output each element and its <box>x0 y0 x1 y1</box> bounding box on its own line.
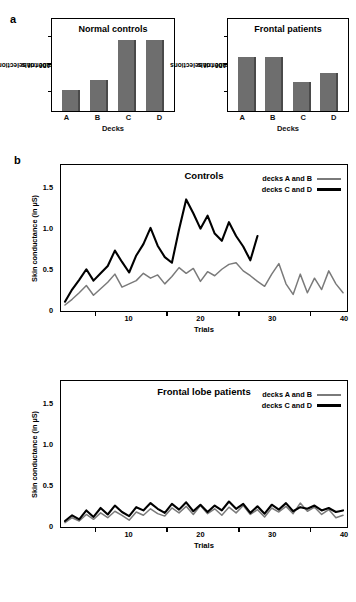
bar-x-label-d: D <box>321 113 347 122</box>
bar-deck-b <box>90 80 108 111</box>
bar-x-axis-title-frontal-patients: Decks <box>227 124 349 133</box>
legend-swatch-decks-cd <box>317 404 341 407</box>
line-chart-legend-frontal: decks A and B decks C and D <box>262 390 341 410</box>
bar-chart-frontal-patients: Number of selections over 100 trials Fro… <box>203 18 349 138</box>
panel-label-b: b <box>14 154 21 166</box>
bar-deck-c <box>293 82 311 111</box>
bar-x-label-a: A <box>229 113 255 122</box>
bar-deck-b <box>265 57 283 111</box>
y-tick-label: 1.5 <box>43 182 53 191</box>
y-tick-label: 0 <box>49 306 53 315</box>
bar-plot-area-normal-controls: Normal controls <box>51 18 175 112</box>
x-tick-label: 20 <box>196 314 204 323</box>
line-chart-frontal-lobe-patients: Skin conductance (in µS) 0 0.5 1.0 1.5 F… <box>26 380 348 562</box>
bar-y-tick-group <box>224 19 228 111</box>
bar-x-axis-title-normal-controls: Decks <box>51 124 175 133</box>
bar-y-tick-group <box>48 19 52 111</box>
bar-x-tick-labels-normal-controls: A B C D <box>51 113 175 122</box>
legend-item-decks-ab: decks A and B <box>262 390 341 399</box>
legend-label-decks-ab: decks A and B <box>262 390 312 399</box>
x-tick-label: 30 <box>268 530 276 539</box>
x-tick-label: 40 <box>340 314 348 323</box>
bar-item <box>59 19 83 111</box>
legend-swatch-decks-ab <box>317 178 341 180</box>
bar-y-tick <box>224 91 228 92</box>
bar-deck-a <box>238 57 256 111</box>
y-tick-label: 1.5 <box>43 398 53 407</box>
bar-x-label-d: D <box>146 113 172 122</box>
x-tick-label: 20 <box>196 530 204 539</box>
y-tick-label: 0.5 <box>43 264 53 273</box>
y-tick-label: 0 <box>49 522 53 531</box>
legend-item-decks-ab: decks A and B <box>262 174 341 183</box>
legend-swatch-decks-cd <box>317 188 341 191</box>
legend-label-decks-ab: decks A and B <box>262 174 312 183</box>
bar-chart-y-axis-label: Number of selections over 100 trials <box>201 18 223 112</box>
legend-item-decks-cd: decks C and D <box>262 185 341 194</box>
panel-label-a: a <box>10 13 16 25</box>
line-x-axis-title-frontal: Trials <box>60 541 348 550</box>
bar-x-label-b: B <box>260 113 286 122</box>
bar-item <box>87 19 111 111</box>
bar-x-label-c: C <box>115 113 141 122</box>
x-tick-label: 30 <box>268 314 276 323</box>
legend-swatch-decks-ab <box>317 394 341 396</box>
bar-item <box>235 19 258 111</box>
bar-chart-y-axis-label: Number of selections over 100 trials <box>25 18 47 112</box>
bar-series-normal-controls <box>57 19 169 111</box>
line-x-axis-title-controls: Trials <box>60 325 348 334</box>
bar-item <box>263 19 286 111</box>
y-tick-label: 0.5 <box>43 480 53 489</box>
x-tick-label: 10 <box>124 314 132 323</box>
bar-item <box>143 19 167 111</box>
bar-item <box>290 19 313 111</box>
bar-item <box>115 19 139 111</box>
bar-x-label-b: B <box>84 113 110 122</box>
line-y-tick-labels-controls: 0 0.5 1.0 1.5 <box>34 164 58 312</box>
legend-label-decks-cd: decks C and D <box>262 401 312 410</box>
bar-series-frontal-patients <box>233 19 343 111</box>
bar-y-tick <box>48 91 52 92</box>
line-plot-area-frontal: Frontal lobe patients decks A and B deck… <box>60 380 348 528</box>
line-chart-legend-controls: decks A and B decks C and D <box>262 174 341 194</box>
bar-chart-normal-controls: Number of selections over 100 trials Nor… <box>27 18 175 138</box>
legend-label-decks-cd: decks C and D <box>262 185 312 194</box>
bar-y-tick <box>224 63 228 64</box>
line-plot-area-controls: Controls decks A and B decks C and D <box>60 164 348 312</box>
bar-x-label-c: C <box>290 113 316 122</box>
legend-item-decks-cd: decks C and D <box>262 401 341 410</box>
line-y-tick-labels-frontal: 0 0.5 1.0 1.5 <box>34 380 58 528</box>
y-tick-label: 1.0 <box>43 439 53 448</box>
bar-deck-d <box>146 40 164 111</box>
bar-y-tick <box>48 63 52 64</box>
bar-deck-c <box>118 40 136 111</box>
bar-x-label-a: A <box>53 113 79 122</box>
bar-plot-area-frontal-patients: Frontal patients <box>227 18 349 112</box>
bar-y-tick <box>224 36 228 37</box>
bar-deck-d <box>320 73 338 111</box>
y-tick-label: 1.0 <box>43 223 53 232</box>
figure-root: a Number of selections over 100 trials N… <box>0 0 356 602</box>
x-tick-label: 10 <box>124 530 132 539</box>
bar-deck-a <box>62 90 80 111</box>
line-chart-controls: Skin conductance (in µS) 0 0.5 1.0 1.5 C… <box>26 164 348 346</box>
bar-x-tick-labels-frontal-patients: A B C D <box>227 113 349 122</box>
bar-item <box>318 19 341 111</box>
x-tick-label: 40 <box>340 530 348 539</box>
bar-y-tick <box>48 36 52 37</box>
